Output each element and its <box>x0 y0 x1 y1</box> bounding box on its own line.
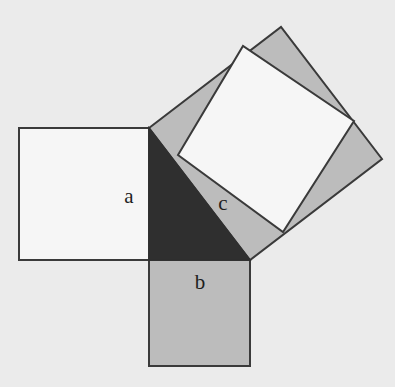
label-c: c <box>218 191 227 215</box>
label-b: b <box>195 270 206 294</box>
label-a: a <box>124 184 134 208</box>
pythagorean-diagram: a c b <box>0 0 395 387</box>
